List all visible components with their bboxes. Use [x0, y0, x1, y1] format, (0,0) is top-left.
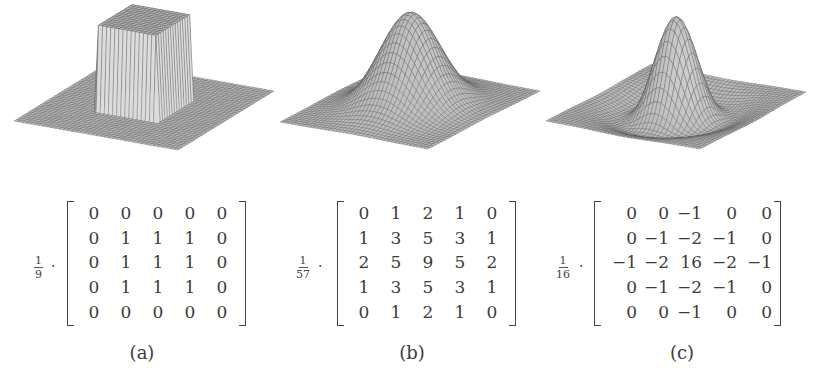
multiply-dot: · — [51, 258, 55, 274]
matrix-cell: 1 — [348, 228, 380, 248]
matrix-cell: 1 — [174, 228, 206, 248]
matrix-cell: 0 — [78, 277, 110, 297]
kernel-matrix-b: 1 57 · 0121013531259521353101210 — [270, 198, 550, 328]
left-bracket — [67, 201, 74, 326]
caption-a: (a) — [130, 342, 155, 363]
matrix-cell: −2 — [669, 228, 702, 248]
matrix-cell: 1 — [380, 203, 412, 223]
matrix-cell: 0 — [142, 203, 174, 223]
matrix-cell: 0 — [174, 302, 206, 322]
scale-denominator: 57 — [296, 268, 310, 280]
caption-c: (c) — [670, 342, 694, 363]
matrix-cell: 1 — [142, 252, 174, 272]
matrix-cell: 3 — [380, 277, 412, 297]
panel-b: 1 57 · 0121013531259521353101210 (b) — [270, 0, 550, 388]
matrix-cell: 0 — [637, 203, 669, 223]
matrix-cell: 5 — [412, 277, 444, 297]
scale-numerator: 1 — [34, 255, 43, 268]
matrix-grid: 0121013531259521353101210 — [348, 201, 508, 324]
matrix-cell: −1 — [702, 277, 737, 297]
gaussian-surface-plot — [270, 0, 550, 190]
right-bracket — [509, 201, 516, 326]
matrix-cell: −1 — [669, 203, 702, 223]
matrix-cell: 1 — [380, 302, 412, 322]
kernel-matrix-a: 1 9 · 0000001110011100111000000 — [0, 198, 280, 328]
log-mexican-hat-surface-plot — [540, 0, 827, 190]
matrix-cell: 0 — [737, 302, 772, 322]
matrix-cell: −1 — [702, 228, 737, 248]
matrix-grid: 0000001110011100111000000 — [78, 201, 238, 324]
matrix-cell: 1 — [142, 228, 174, 248]
matrix-cell: 2 — [476, 252, 508, 272]
matrix-cell: 5 — [412, 228, 444, 248]
matrix-cell: 0 — [348, 203, 380, 223]
matrix-cell: 0 — [600, 203, 637, 223]
matrix-cell: 3 — [380, 228, 412, 248]
matrix-cell: 0 — [702, 203, 737, 223]
matrix-grid: 00−1000−1−2−10−1−216−2−10−1−2−1000−100 — [600, 201, 772, 324]
matrix-cell: 1 — [348, 277, 380, 297]
matrix-cell: 0 — [476, 302, 508, 322]
matrix-cell: 0 — [78, 252, 110, 272]
matrix-cell: −1 — [737, 252, 772, 272]
matrix-cell: 0 — [702, 302, 737, 322]
matrix-cell: 3 — [444, 277, 476, 297]
kernel-matrix-c: 1 16 · 00−1000−1−2−10−1−216−2−10−1−2−100… — [540, 198, 827, 328]
panel-a: 1 9 · 0000001110011100111000000 (a) — [0, 0, 280, 388]
matrix-cell: 16 — [669, 252, 702, 272]
matrix-cell: 0 — [110, 302, 142, 322]
matrix-cell: 1 — [110, 252, 142, 272]
matrix-cell: 2 — [412, 302, 444, 322]
matrix-cell: 0 — [174, 203, 206, 223]
matrix-cell: 1 — [476, 228, 508, 248]
matrix-cell: −1 — [669, 302, 702, 322]
panel-c: 1 16 · 00−1000−1−2−10−1−216−2−10−1−2−100… — [540, 0, 827, 388]
multiply-dot: · — [579, 258, 583, 274]
matrix-cell: 1 — [444, 302, 476, 322]
matrix-cell: 0 — [78, 228, 110, 248]
matrix-cell: −1 — [600, 252, 637, 272]
scale-fraction-b: 1 57 — [296, 255, 310, 280]
matrix-cell: −1 — [637, 228, 669, 248]
scale-denominator: 16 — [556, 268, 570, 280]
matrix-cell: 0 — [206, 203, 238, 223]
matrix-cell: 0 — [142, 302, 174, 322]
matrix-cell: −2 — [637, 252, 669, 272]
matrix-cell: 0 — [78, 203, 110, 223]
matrix-cell: 1 — [110, 228, 142, 248]
matrix-cell: 0 — [600, 277, 637, 297]
matrix-cell: 0 — [206, 302, 238, 322]
matrix-cell: 3 — [444, 228, 476, 248]
matrix-cell: 0 — [78, 302, 110, 322]
matrix-cell: 0 — [737, 277, 772, 297]
caption-b: (b) — [399, 342, 425, 363]
matrix-cell: 0 — [348, 302, 380, 322]
matrix-cell: 5 — [380, 252, 412, 272]
matrix-cell: 5 — [444, 252, 476, 272]
multiply-dot: · — [318, 258, 322, 274]
box-filter-surface-plot — [0, 0, 280, 190]
matrix-cell: −2 — [669, 277, 702, 297]
matrix-cell: 1 — [174, 277, 206, 297]
matrix-cell: 0 — [206, 277, 238, 297]
right-bracket — [774, 201, 781, 326]
matrix-cell: 9 — [412, 252, 444, 272]
matrix-cell: 0 — [737, 203, 772, 223]
matrix-cell: 0 — [476, 203, 508, 223]
right-bracket — [239, 201, 246, 326]
matrix-cell: −1 — [637, 277, 669, 297]
matrix-cell: 1 — [110, 277, 142, 297]
matrix-cell: −2 — [702, 252, 737, 272]
matrix-cell: 0 — [206, 228, 238, 248]
matrix-cell: 0 — [737, 228, 772, 248]
scale-fraction-c: 1 16 — [556, 255, 570, 280]
matrix-cell: 1 — [476, 277, 508, 297]
scale-numerator: 1 — [559, 255, 568, 268]
matrix-cell: 0 — [206, 252, 238, 272]
matrix-cell: 1 — [142, 277, 174, 297]
matrix-cell: 1 — [444, 203, 476, 223]
matrix-cell: 2 — [348, 252, 380, 272]
matrix-cell: 0 — [110, 203, 142, 223]
scale-numerator: 1 — [299, 255, 308, 268]
matrix-cell: 1 — [174, 252, 206, 272]
